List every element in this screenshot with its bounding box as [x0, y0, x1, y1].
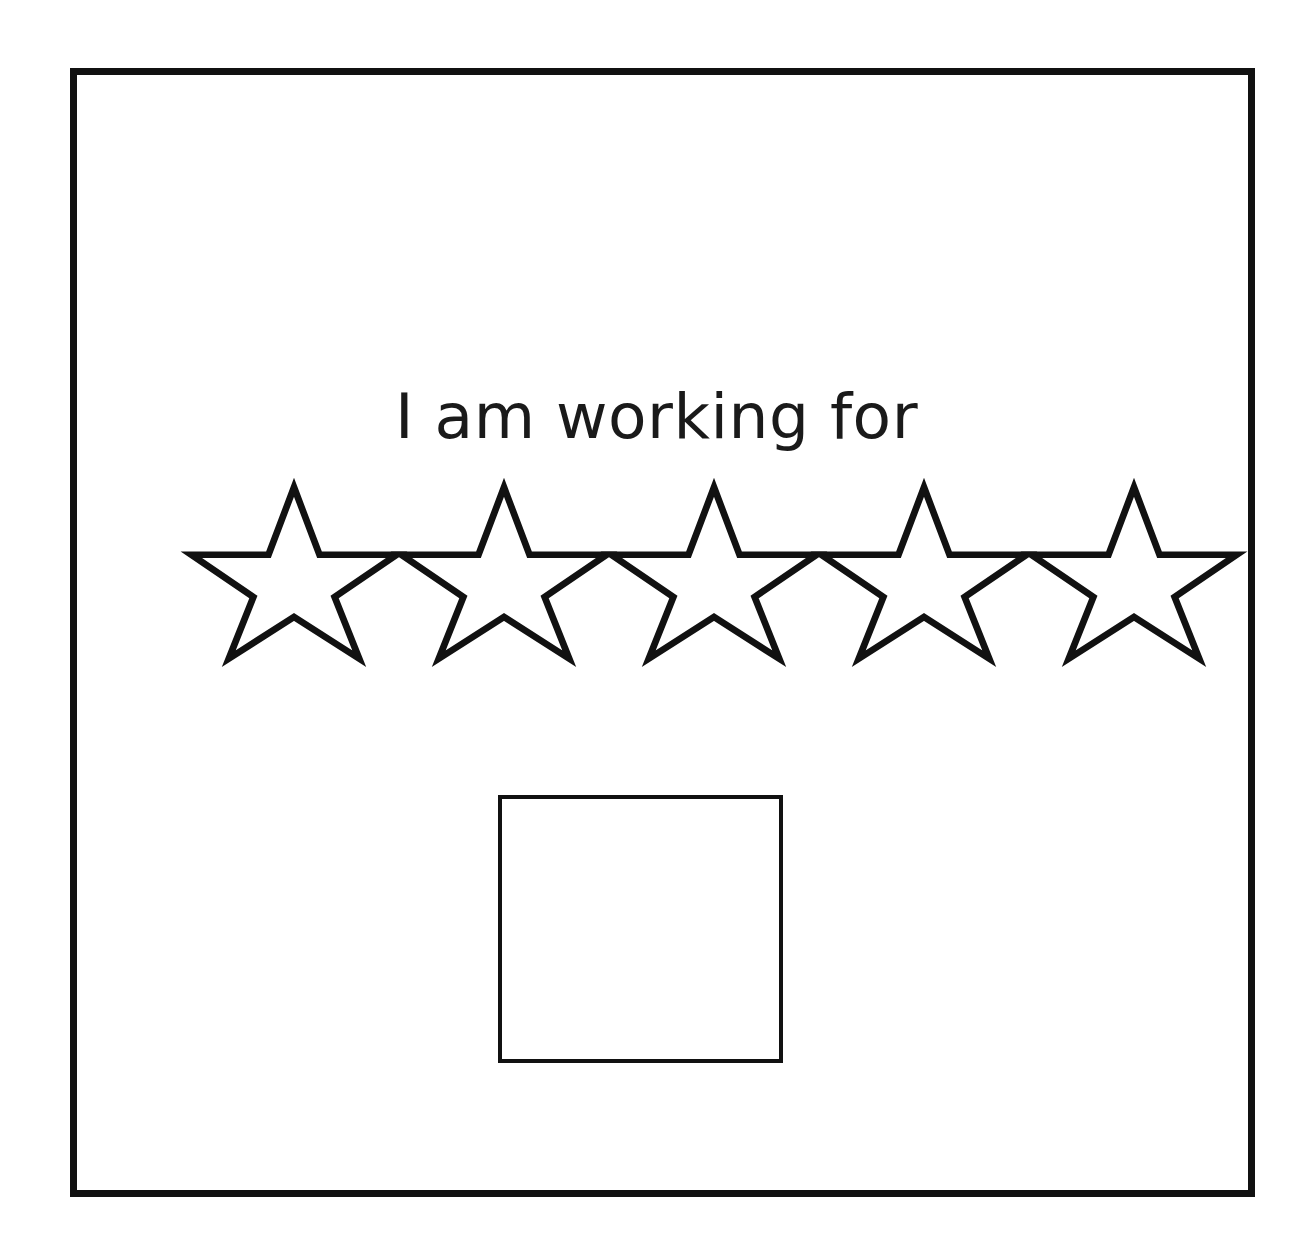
star-rating-item-1[interactable]: [186, 483, 402, 663]
star-outline-icon: [186, 483, 402, 663]
reward-box[interactable]: [498, 795, 783, 1063]
star-outline-icon: [816, 483, 1032, 663]
star-rating-item-3[interactable]: [606, 483, 822, 663]
star-rating-item-2[interactable]: [396, 483, 612, 663]
prompt-text: I am working for: [0, 378, 1313, 456]
star-outline-icon: [396, 483, 612, 663]
star-outline-icon: [1026, 483, 1242, 663]
star-rating-item-4[interactable]: [816, 483, 1032, 663]
star-rating: [186, 483, 1226, 663]
star-outline-icon: [606, 483, 822, 663]
star-rating-item-5[interactable]: [1026, 483, 1242, 663]
